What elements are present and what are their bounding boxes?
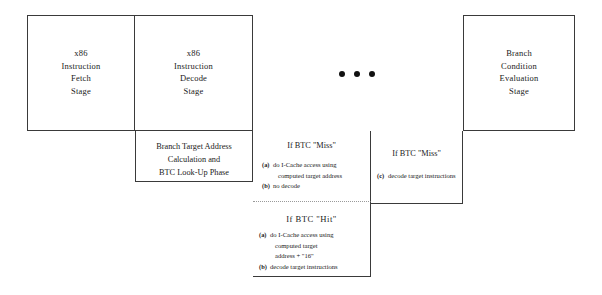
- item-line: no decode: [273, 181, 365, 192]
- phase-line: Branch Target Address: [138, 140, 250, 153]
- stage-box-fetch: x86 Instruction Fetch Stage: [27, 15, 135, 131]
- stage-line: Fetch: [28, 72, 134, 85]
- btc-miss-later-box: If BTC "Miss" (c) decode target instruct…: [371, 131, 463, 204]
- list-item: (a) do I-Cache access using computed tar…: [259, 230, 366, 262]
- stage-line: Stage: [28, 85, 134, 98]
- stage-line: x86: [28, 47, 134, 60]
- stage-label-branch-condition-evaluation: Branch Condition Evaluation Stage: [464, 47, 574, 97]
- item-line: computed target address: [273, 171, 365, 182]
- stage-label-fetch: x86 Instruction Fetch Stage: [28, 47, 134, 97]
- stage-line: Instruction: [135, 60, 252, 73]
- item-text: decode target instructions: [270, 262, 366, 273]
- stage-box-decode: x86 Instruction Decode Stage: [135, 15, 253, 131]
- item-line: do I-Cache access using: [273, 160, 365, 171]
- btc-hit-title: If BTC "Hit": [253, 214, 370, 225]
- btc-hit-items: (a) do I-Cache access using computed tar…: [259, 230, 366, 272]
- btc-miss-decode-title: If BTC "Miss": [253, 140, 370, 151]
- phase-box-branch-target-address: Branch Target Address Calculation and BT…: [135, 131, 253, 182]
- item-line: decode target instructions: [388, 171, 458, 182]
- item-line: computed target: [270, 241, 366, 252]
- stage-line: Condition: [464, 60, 574, 73]
- dot-icon: [369, 71, 375, 77]
- item-text: do I-Cache access using computed target …: [270, 230, 366, 262]
- item-text: no decode: [273, 181, 365, 192]
- stage-line: Instruction: [28, 60, 134, 73]
- list-item: (a) do I-Cache access using computed tar…: [262, 160, 365, 181]
- item-marker: (b): [259, 262, 267, 273]
- continuation-dots-icon: [339, 71, 375, 77]
- item-text: decode target instructions: [388, 171, 458, 182]
- list-item: (c) decode target instructions: [377, 171, 458, 182]
- btc-miss-later-title: If BTC "Miss": [371, 148, 462, 159]
- btc-miss-decode-box: If BTC "Miss" (a) do I-Cache access usin…: [253, 131, 371, 202]
- btc-hit-box: If BTC "Hit" (a) do I-Cache access using…: [253, 202, 371, 277]
- phase-line: BTC Look-Up Phase: [138, 166, 250, 179]
- stage-label-decode: x86 Instruction Decode Stage: [135, 47, 252, 97]
- list-item: (b) no decode: [262, 181, 365, 192]
- list-item: (b) decode target instructions: [259, 262, 366, 273]
- item-marker: (a): [262, 160, 269, 171]
- item-line: do I-Cache access using: [270, 230, 366, 241]
- dot-icon: [354, 71, 360, 77]
- diagram-canvas: x86 Instruction Fetch Stage x86 Instruct…: [0, 0, 602, 295]
- item-line: decode target instructions: [270, 262, 366, 273]
- stage-line: Stage: [135, 85, 252, 98]
- dot-icon: [339, 71, 345, 77]
- item-marker: (c): [377, 171, 384, 182]
- item-marker: (b): [262, 181, 270, 192]
- stage-line: Branch: [464, 47, 574, 60]
- stage-box-branch-condition-evaluation: Branch Condition Evaluation Stage: [463, 15, 575, 131]
- phase-label-branch-target-address: Branch Target Address Calculation and BT…: [138, 140, 250, 179]
- stage-line: Decode: [135, 72, 252, 85]
- stage-line: Stage: [464, 85, 574, 98]
- phase-line: Calculation and: [138, 153, 250, 166]
- stage-line: Evaluation: [464, 72, 574, 85]
- item-marker: (a): [259, 230, 266, 241]
- btc-miss-decode-items: (a) do I-Cache access using computed tar…: [262, 160, 365, 192]
- stage-line: x86: [135, 47, 252, 60]
- item-line: address + "16": [270, 251, 366, 262]
- item-text: do I-Cache access using computed target …: [273, 160, 365, 181]
- btc-miss-later-items: (c) decode target instructions: [377, 171, 458, 182]
